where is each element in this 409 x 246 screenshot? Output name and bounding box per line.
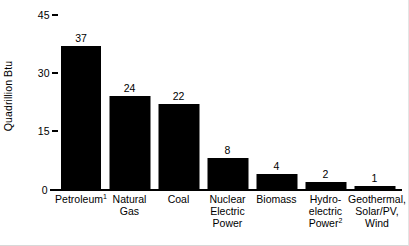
- x-label-geothermal-line3: Wind: [347, 218, 407, 230]
- bar-value-biomass: 4: [274, 161, 280, 172]
- bar-value-geothermal-solar-wind: 1: [372, 173, 378, 184]
- x-label-biomass: Biomass: [252, 194, 301, 206]
- x-label-coal-line1: Coal: [154, 194, 203, 206]
- bar-slot-biomass: 4: [252, 0, 301, 189]
- x-label-geothermal-solar-wind: Geothermal, Solar/PV, Wind: [347, 194, 407, 229]
- bar-value-coal: 22: [173, 91, 185, 102]
- x-label-nuclear: Nuclear Electric Power: [203, 194, 252, 229]
- bar-slot-coal: 22: [154, 0, 203, 189]
- y-tick-label-45: 45: [38, 9, 50, 21]
- footnote-marker-hydroelectric: 2: [338, 216, 342, 223]
- x-label-nuclear-line2: Electric: [203, 206, 252, 218]
- bar-geothermal-solar-wind[interactable]: [354, 186, 395, 190]
- y-axis-title: Quadrillion Btu: [0, 0, 16, 192]
- plot-area: 37 24 22 8 4 2: [57, 0, 402, 191]
- y-tick-label-0: 0: [42, 184, 48, 196]
- x-label-geothermal-line2: Solar/PV,: [347, 206, 407, 218]
- bar-slot-hydroelectric: 2: [301, 0, 350, 189]
- x-axis-labels: Petroleum1 Natural Gas Coal Nuclear Elec…: [57, 194, 402, 244]
- bar-hydroelectric[interactable]: [305, 182, 346, 190]
- x-label-hydroelectric: Hydro- electric Power2: [301, 194, 350, 229]
- y-tick-label-15: 15: [38, 125, 50, 137]
- bar-petroleum[interactable]: [61, 46, 101, 190]
- x-label-natural-gas: Natural Gas: [105, 194, 154, 218]
- bar-value-nuclear: 8: [225, 145, 231, 156]
- y-axis-title-text: Quadrillion Btu: [2, 61, 14, 131]
- x-label-coal: Coal: [154, 194, 203, 206]
- x-label-hydroelectric-text: Power: [309, 217, 339, 229]
- y-tick-30: 30: [38, 67, 58, 79]
- bar-chart-figure: Quadrillion Btu 45 30 15 0 37: [0, 0, 409, 246]
- x-label-hydroelectric-line3: Power2: [301, 218, 350, 230]
- bar-slot-nuclear: 8: [203, 0, 252, 189]
- x-label-nuclear-line3: Power: [203, 218, 252, 230]
- y-axis-ticks: 45 30 15 0: [18, 0, 58, 246]
- bar-value-natural-gas: 24: [124, 83, 136, 94]
- bars-group: 37 24 22 8 4 2: [57, 0, 402, 189]
- bar-biomass[interactable]: [256, 174, 297, 190]
- x-label-petroleum-line1: Petroleum1: [51, 194, 111, 206]
- x-label-petroleum-text: Petroleum: [55, 193, 103, 205]
- bar-natural-gas[interactable]: [109, 96, 150, 189]
- bar-slot-geothermal-solar-wind: 1: [350, 0, 399, 189]
- x-label-biomass-line1: Biomass: [252, 194, 301, 206]
- bar-value-hydroelectric: 2: [323, 169, 329, 180]
- y-tick-45: 45: [38, 9, 58, 21]
- y-tick-15: 15: [38, 125, 58, 137]
- y-tick-label-30: 30: [38, 67, 50, 79]
- x-label-natural-gas-line2: Gas: [105, 206, 154, 218]
- bar-value-petroleum: 37: [75, 33, 87, 44]
- bar-slot-petroleum: 37: [57, 0, 105, 189]
- bar-nuclear[interactable]: [207, 158, 248, 189]
- bar-coal[interactable]: [158, 104, 199, 189]
- x-axis-line: [57, 189, 402, 191]
- x-label-petroleum: Petroleum1: [51, 194, 111, 206]
- bar-slot-natural-gas: 24: [105, 0, 154, 189]
